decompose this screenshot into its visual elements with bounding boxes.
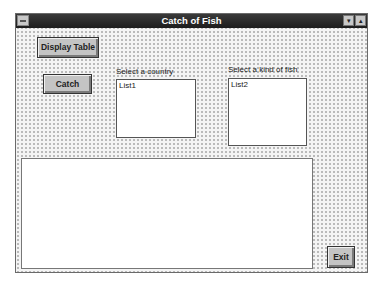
output-textbox[interactable]	[21, 158, 313, 269]
window-title: Catch of Fish	[16, 14, 367, 28]
country-list-label: Select a country	[116, 67, 173, 76]
exit-button[interactable]: Exit	[327, 246, 355, 268]
title-bar[interactable]: Catch of Fish ▾ ▴	[16, 14, 367, 28]
country-listbox[interactable]: List1	[116, 79, 196, 138]
list-item[interactable]: List1	[119, 81, 193, 90]
main-window: Catch of Fish ▾ ▴ Display Table Catch Se…	[15, 13, 368, 273]
fish-listbox[interactable]: List2	[228, 78, 307, 146]
list-item[interactable]: List2	[231, 80, 304, 89]
fish-list-label: Select a kind of fish	[228, 65, 297, 74]
catch-button[interactable]: Catch	[43, 74, 92, 94]
display-table-button[interactable]: Display Table	[37, 37, 99, 58]
minimize-icon[interactable]: ▾	[343, 15, 354, 26]
maximize-icon[interactable]: ▴	[355, 15, 366, 26]
